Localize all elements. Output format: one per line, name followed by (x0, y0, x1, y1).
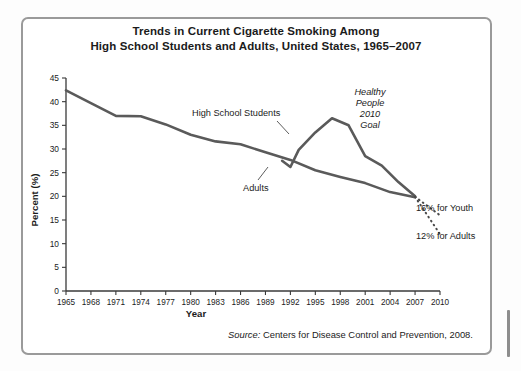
x-tick-group: 1965196819711974197719801983198619891992… (57, 291, 450, 307)
x-tick-label: 1977 (157, 298, 176, 307)
y-tick-label: 35 (50, 120, 60, 130)
x-tick-label: 1968 (82, 298, 101, 307)
y-tick-label: 0 (54, 286, 59, 296)
y-tick-label: 10 (50, 239, 60, 249)
figure-root: Trends in Current Cigarette Smoking Amon… (0, 0, 521, 371)
y-tick-label: 45 (50, 73, 60, 83)
y-tick-group: 051015202530354045 (50, 73, 66, 296)
adults-label: Adults (243, 183, 269, 193)
source-label: Source: (228, 329, 260, 340)
healthy-people-goal-line-3: 2010 (359, 109, 381, 119)
y-tick-label: 30 (50, 144, 60, 154)
x-tick-label: 2001 (356, 298, 375, 307)
leader-line-adults (258, 167, 268, 180)
leader-line-high-school-students (277, 121, 289, 134)
y-tick-label: 15 (50, 215, 60, 225)
x-tick-label: 2004 (381, 298, 400, 307)
x-tick-label: 1971 (107, 298, 126, 307)
healthy-people-goal-line-4: Goal (360, 120, 380, 130)
y-tick-label: 20 (50, 191, 60, 201)
healthy-people-goal-line-1: Healthy (354, 87, 387, 97)
x-tick-label: 1965 (57, 298, 76, 307)
series-line-high-school-students (282, 118, 415, 196)
x-tick-label: 1992 (281, 298, 300, 307)
chart-svg: 051015202530354045 196519681971197419771… (0, 0, 521, 371)
plot-area: 051015202530354045 196519681971197419771… (0, 0, 521, 371)
source-text: Centers for Disease Control and Preventi… (260, 329, 473, 340)
youth-goal-label: 16% for Youth (416, 203, 473, 213)
x-tick-label: 1998 (331, 298, 350, 307)
high-school-students-label: High School Students (192, 108, 281, 118)
y-tick-label: 5 (54, 262, 59, 272)
x-tick-label: 1983 (206, 298, 225, 307)
x-tick-label: 1980 (182, 298, 201, 307)
source-note: Source: Centers for Disease Control and … (228, 329, 473, 340)
x-tick-label: 2010 (431, 298, 450, 307)
y-axis-title: Percent (%) (29, 174, 40, 227)
adults-goal-label: 12% for Adults (416, 231, 476, 241)
y-tick-label: 25 (50, 168, 60, 178)
x-tick-label: 1995 (306, 298, 325, 307)
healthy-people-goal-line-2: People (356, 98, 385, 108)
x-tick-label: 1986 (231, 298, 250, 307)
x-tick-label: 1989 (256, 298, 275, 307)
y-tick-label: 40 (50, 97, 60, 107)
x-tick-label: 2007 (406, 298, 425, 307)
x-axis-title: Year (186, 308, 207, 319)
x-tick-label: 1974 (132, 298, 151, 307)
